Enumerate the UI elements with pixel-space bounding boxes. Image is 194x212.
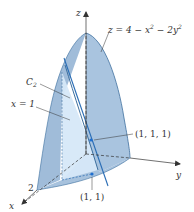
x-intercept-label: 2 — [28, 183, 34, 193]
point-1-1-1 — [89, 138, 92, 141]
leader-surface — [101, 32, 109, 52]
z-axis-label: z — [75, 8, 81, 18]
y-axis-label: y — [175, 170, 182, 180]
curve-c2-label: C2 — [26, 77, 37, 88]
point-1-1 — [90, 172, 93, 175]
paraboloid-diagram: z x y 2 z = 4 − x2 − 2y2 C2 x = 1 (1, 1,… — [0, 0, 194, 212]
point3d-label: (1, 1, 1) — [135, 129, 171, 139]
surface-equation-label: z = 4 − x2 − 2y2 — [107, 23, 182, 35]
point2d-label: (1, 1) — [80, 192, 104, 202]
x-axis-label: x — [9, 201, 14, 211]
plane-label: x = 1 — [11, 99, 35, 109]
y-axis — [130, 158, 180, 164]
